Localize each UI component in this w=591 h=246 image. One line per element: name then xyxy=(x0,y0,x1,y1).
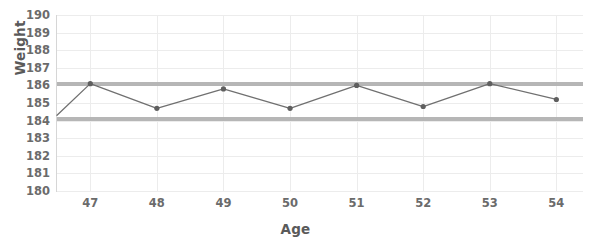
x-tick-label: 54 xyxy=(536,198,576,210)
gridline-horizontal xyxy=(57,191,583,192)
y-tick-label: 189 xyxy=(4,28,50,40)
data-point xyxy=(154,106,159,111)
y-tick-label: 182 xyxy=(4,151,50,163)
x-tick-label: 47 xyxy=(70,198,110,210)
x-tick-label: 50 xyxy=(270,198,310,210)
x-tick-label: 51 xyxy=(337,198,377,210)
y-tick-label: 186 xyxy=(4,80,50,92)
x-axis-tick-labels: 4748495051525354 xyxy=(57,198,583,214)
y-axis-tick-labels: 180181182183184185186187188189190 xyxy=(0,15,50,191)
data-point xyxy=(554,97,559,102)
y-tick-label: 180 xyxy=(4,186,50,198)
x-tick-label: 52 xyxy=(403,198,443,210)
data-point xyxy=(354,83,359,88)
plot-area xyxy=(57,15,583,191)
x-tick-label: 53 xyxy=(470,198,510,210)
line-chart: Weight 180181182183184185186187188189190… xyxy=(0,0,591,246)
y-tick-label: 181 xyxy=(4,168,50,180)
data-point xyxy=(88,81,93,86)
y-tick-label: 184 xyxy=(4,116,50,128)
x-tick-label: 48 xyxy=(137,198,177,210)
data-point xyxy=(487,81,492,86)
y-tick-label: 188 xyxy=(4,45,50,57)
x-tick-label: 49 xyxy=(203,198,243,210)
weight-series xyxy=(57,15,583,191)
y-tick-label: 190 xyxy=(4,10,50,22)
y-tick-label: 185 xyxy=(4,98,50,110)
data-point xyxy=(287,106,292,111)
y-tick-label: 183 xyxy=(4,133,50,145)
series-line xyxy=(57,84,556,116)
series-markers xyxy=(88,81,559,111)
data-point xyxy=(421,104,426,109)
y-tick-label: 187 xyxy=(4,63,50,75)
data-point xyxy=(221,86,226,91)
x-axis-title: Age xyxy=(0,221,591,237)
